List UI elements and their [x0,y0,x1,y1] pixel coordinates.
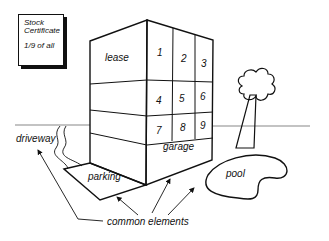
tree-canopy [238,68,275,100]
garage-label: garage [163,141,195,152]
floor-line-right-2 [147,112,213,116]
common-elements-label: common elements [107,216,189,227]
arrow-to-driveway [38,150,103,221]
floor-line-left-3 [90,133,147,145]
arrow-to-pool [168,188,194,215]
building-left-face [90,20,147,185]
driveway-line-2 [63,126,82,166]
unit-6: 6 [200,91,206,102]
unit-1: 1 [157,47,163,58]
unit-4: 4 [156,95,162,106]
tree-trunk [236,95,256,148]
driveway-label: driveway [16,133,56,144]
floor-line-right-1 [147,80,213,82]
arrow-to-garage [152,179,170,213]
unit-5: 5 [179,93,185,104]
unit-8: 8 [180,122,186,133]
driveway-line-1 [55,126,68,168]
lease-label: lease [105,52,129,63]
unit-7: 7 [156,125,162,136]
unit-2: 2 [180,53,187,64]
pool-label: pool [225,168,246,179]
unit-divider-1 [172,28,173,141]
floor-line-left-1 [90,80,147,84]
floor-line-left-2 [90,110,147,116]
pool-shape [206,155,287,199]
arrow-to-parking [117,197,138,215]
unit-9: 9 [200,120,206,131]
unit-3: 3 [201,58,207,69]
parking-label: parking [87,171,121,182]
condominium-diagram: lease garage 1 2 3 4 5 6 7 8 9 pool driv… [0,0,329,241]
